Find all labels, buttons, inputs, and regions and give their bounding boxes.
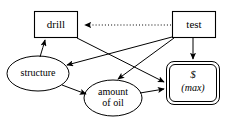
edge-structure-to-drill (40, 40, 45, 57)
edge-amount-of-oil-to-value (140, 89, 164, 93)
node-shape-drill[interactable] (35, 12, 78, 38)
node-shape-amount-of-oil[interactable] (84, 80, 142, 116)
edge-drill-to-value (77, 38, 164, 82)
node-shape-structure[interactable] (7, 56, 69, 91)
influence-diagram-canvas: drill test structure amount of oil $ (ma… (0, 0, 230, 133)
node-shape-test[interactable] (173, 12, 216, 38)
diagram-graphics (0, 0, 230, 133)
edge-structure-to-amount-of-oil (62, 85, 86, 94)
node-shape-value[interactable] (167, 62, 220, 105)
